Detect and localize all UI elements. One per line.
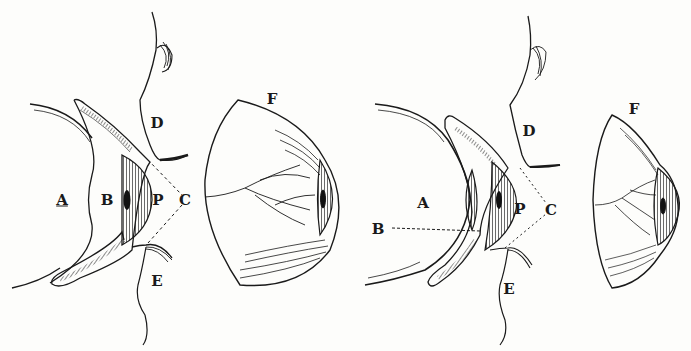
right-upper-eyelid — [510, 16, 560, 167]
right-eyeball — [593, 115, 679, 288]
label-left-d: D — [150, 116, 163, 131]
label-right-b: B — [372, 222, 385, 237]
diagram-canvas: A B P C D E F A B P C D E F — [0, 0, 691, 351]
label-right-d: D — [522, 124, 535, 139]
label-left-p: P — [152, 193, 163, 208]
right-b-pointer — [392, 228, 480, 231]
right-pupil — [496, 191, 502, 209]
label-right-f: F — [629, 102, 640, 117]
label-left-c: C — [179, 193, 191, 208]
label-left-b: B — [101, 193, 114, 208]
eye-diagram-right — [0, 0, 691, 351]
label-right-c: C — [545, 203, 557, 218]
label-left-e: E — [151, 274, 162, 289]
label-left-a: A — [56, 193, 68, 208]
label-right-e: E — [503, 282, 514, 297]
right-iris — [466, 170, 477, 230]
label-right-p: P — [514, 202, 525, 217]
label-right-a: A — [417, 196, 429, 211]
label-left-f: F — [267, 92, 278, 107]
